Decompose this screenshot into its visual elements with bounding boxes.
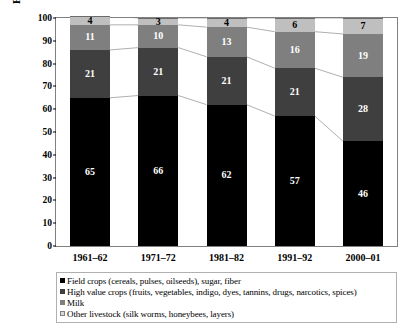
legend-item[interactable]: Milk [60,297,393,308]
bar-segment[interactable]: 3 [138,18,178,25]
legend-item-label: Milk [67,298,84,308]
y-axis-tick-label: 10 [43,218,53,228]
bar-segment-value: 62 [222,170,232,180]
bar-segment[interactable]: 28 [343,77,383,141]
bar-segment[interactable]: 16 [275,32,315,68]
y-axis-tick-label: 30 [43,173,53,183]
bar-segment-value: 21 [85,69,95,79]
connector-line [178,25,206,27]
bar-segment-value: 3 [156,17,161,27]
y-axis-tick-label: 40 [43,150,53,160]
chart-plot-area: 0102030405060708090100652111466211036221… [55,17,398,247]
y-axis-tick-label: 90 [43,36,53,46]
y-axis-tick-label: 0 [47,241,52,251]
connector-line [178,96,206,105]
bar-segment-value: 65 [85,167,95,177]
bar-segment-value: 66 [153,166,163,176]
bar-segment[interactable]: 10 [138,25,178,48]
bar-column[interactable]: 5721166 [275,18,315,246]
connector-line [315,32,343,34]
x-axis-label: 2000–01 [318,252,408,263]
bar-segment-value: 7 [360,21,365,31]
bar-segment[interactable]: 65 [70,98,110,246]
bar-segment[interactable]: 6 [275,18,315,32]
y-axis-tick-label: 60 [43,104,53,114]
y-axis-tick-mark [53,86,56,87]
y-axis-tick-mark [53,132,56,133]
bar-segment-value: 46 [358,189,368,199]
y-axis-tick-label: 20 [43,195,53,205]
bar-column[interactable]: 4628197 [343,18,383,246]
light-gray-square-icon [60,311,65,316]
black-square-icon [60,278,65,283]
bar-segment-value: 4 [88,16,93,26]
plot-inner: 0102030405060708090100652111466211036221… [56,18,397,246]
bar-segment-value: 57 [290,176,300,186]
connector-line [247,105,275,116]
y-axis-tick-mark [53,18,56,19]
bar-segment[interactable]: 62 [207,105,247,246]
bar-segment[interactable]: 57 [275,116,315,246]
legend-item[interactable]: High value crops (fruits, vegetables, in… [60,286,393,297]
connector-line [178,48,206,57]
y-axis-tick-mark [53,63,56,64]
bar-segment[interactable]: 46 [343,141,383,246]
y-axis-tick-label: 50 [43,127,53,137]
bar-segment-value: 28 [358,104,368,114]
connector-line [110,48,138,50]
bar-segment-value: 21 [153,67,163,77]
bar-segment-value: 13 [222,37,232,47]
bar-column[interactable]: 6221134 [207,18,247,246]
y-axis-tick-mark [53,109,56,110]
bar-segment-value: 4 [224,18,229,28]
chart-legend: Field crops (cereals, pulses, oilseeds),… [56,272,397,323]
bar-segment[interactable]: 21 [138,48,178,96]
legend-item[interactable]: Field crops (cereals, pulses, oilseeds),… [60,275,393,286]
y-axis-tick-mark [53,154,56,155]
bar-segment[interactable]: 4 [70,16,110,25]
connector-line [247,27,275,32]
bar-segment[interactable]: 66 [138,96,178,246]
bar-segment-value: 16 [290,45,300,55]
bar-segment-value: 21 [290,87,300,97]
legend-item[interactable]: Other livestock (silk worms, honeybees, … [60,308,393,319]
y-axis-tick-mark [53,40,56,41]
bar-segment-value: 11 [85,32,94,42]
legend-item-label: High value crops (fruits, vegetables, in… [67,287,357,297]
dark-gray-square-icon [60,289,65,294]
bar-segment[interactable]: 21 [207,57,247,105]
mid-gray-square-icon [60,300,65,305]
y-axis-tick-label: 80 [43,59,53,69]
bar-segment[interactable]: 11 [70,25,110,50]
connector-line [315,68,343,77]
y-axis-tick-label: 100 [38,13,52,23]
bar-segment[interactable]: 19 [343,34,383,77]
y-axis-tick-mark [53,246,56,247]
bar-segment-value: 10 [153,31,163,41]
y-axis-tick-label: 70 [43,81,53,91]
bar-segment-value: 21 [222,76,232,86]
bar-segment[interactable]: 21 [70,50,110,98]
bar-segment[interactable]: 4 [207,18,247,27]
y-axis-tick-mark [53,177,56,178]
y-axis-tick-mark [53,223,56,224]
y-axis-tick-mark [53,200,56,201]
bar-segment[interactable]: 21 [275,68,315,116]
y-axis-title: Percentage value of agricultural output [9,0,25,34]
bar-segment-value: 19 [358,51,368,61]
connector-line [247,57,275,68]
bar-segment-value: 6 [292,20,297,30]
bar-column[interactable]: 6621103 [138,18,178,246]
bar-segment[interactable]: 13 [207,27,247,57]
connector-line [315,116,343,141]
legend-item-label: Field crops (cereals, pulses, oilseeds),… [67,276,241,286]
connector-line [110,96,138,98]
bar-column[interactable]: 6521114 [70,18,110,246]
bar-segment[interactable]: 7 [343,18,383,34]
legend-item-label: Other livestock (silk worms, honeybees, … [67,309,234,319]
